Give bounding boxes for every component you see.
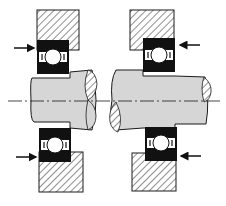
bearing-ball-icon <box>153 135 169 151</box>
bearing-arrangement-diagram <box>0 0 226 206</box>
right-arrangement <box>110 10 212 191</box>
bearing-ball-icon <box>151 47 167 63</box>
right-bearing-bottom <box>145 127 177 161</box>
right-bearing-top <box>143 38 175 72</box>
bearing-ball-icon <box>47 137 63 153</box>
bearing-ball-icon <box>45 49 61 65</box>
left-bearing-top <box>37 40 69 74</box>
right-shaft <box>111 70 208 130</box>
left-bearing-bottom <box>39 128 71 162</box>
right-shaft-break-right <box>202 77 211 102</box>
